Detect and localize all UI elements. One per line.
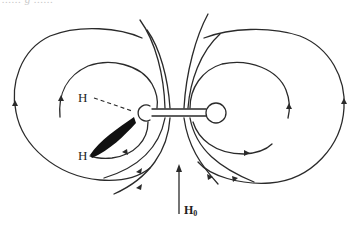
field-line-left-inner xyxy=(60,63,158,117)
arrow-icon-left-outer xyxy=(12,100,18,106)
field-line-bottom-2 xyxy=(104,118,165,178)
arrow-icon-right-inner xyxy=(286,103,292,109)
field-line-right-inner xyxy=(190,62,289,118)
field-label: H0 xyxy=(184,203,197,218)
field-line-right-outer xyxy=(198,29,344,183)
field-line-top-2 xyxy=(140,20,165,108)
field-line-bottom-3 xyxy=(184,118,218,184)
arrow-icon-bottom-left-2 xyxy=(136,168,142,174)
arrow-icon-right-outer xyxy=(341,98,347,104)
dashed-bond xyxy=(94,98,132,111)
wedge-bond xyxy=(90,117,136,158)
arrow-icon-left-inner xyxy=(58,95,64,101)
carbon-right xyxy=(206,103,226,123)
arrow-icon-applied-field xyxy=(176,164,182,172)
arrow-icon-bottom-left-1 xyxy=(136,184,142,190)
field-line-top-1 xyxy=(147,30,170,108)
arrow-icon-right-lower xyxy=(244,150,250,156)
field-line-top-3 xyxy=(184,14,208,108)
shielding-diagram: H H H0 xyxy=(0,0,356,227)
atom-h-lower: H xyxy=(78,148,87,163)
carbon-left xyxy=(138,105,150,121)
field-line-top-4 xyxy=(188,34,220,108)
diagram-canvas: ...... g ...... xyxy=(0,0,356,227)
atom-h-upper: H xyxy=(78,90,87,105)
